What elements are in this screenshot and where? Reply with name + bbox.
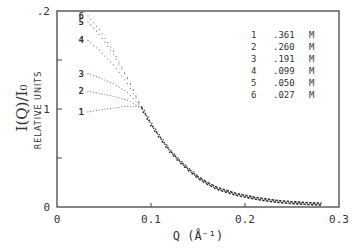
data-point: [87, 21, 88, 22]
data-point: [308, 204, 310, 206]
data-point: [143, 110, 145, 112]
data-point: [99, 29, 100, 30]
data-point: [223, 189, 225, 191]
data-point: [110, 50, 111, 51]
x-axis-label: Q (Å⁻¹): [173, 228, 224, 243]
data-point: [157, 133, 159, 135]
legend: 1.361M2.260M3.191M4.099M5.050M6.027M: [251, 30, 315, 100]
data-point: [113, 96, 114, 97]
data-point: [192, 171, 194, 173]
data-point: [142, 108, 144, 110]
data-point: [113, 64, 114, 65]
data-point: [285, 202, 287, 204]
data-point: [87, 73, 88, 74]
data-point: [113, 107, 114, 108]
data-point: [104, 55, 105, 56]
series-6: [87, 15, 142, 108]
data-point: [172, 153, 174, 155]
data-point: [113, 51, 114, 52]
data-point: [242, 194, 244, 196]
data-point: [90, 19, 91, 20]
data-point: [87, 91, 88, 92]
data-point: [121, 88, 122, 89]
data-point: [116, 56, 117, 57]
data-point: [118, 61, 119, 62]
legend-unit: M: [309, 66, 315, 76]
data-point: [110, 95, 111, 96]
data-point: [208, 183, 210, 185]
data-point: [161, 141, 163, 143]
data-point: [127, 83, 128, 84]
data-point: [265, 198, 267, 200]
data-point: [102, 78, 103, 79]
legend-unit: M: [309, 90, 315, 100]
data-point: [107, 58, 108, 59]
data-point: [175, 155, 177, 157]
data-point: [145, 115, 147, 117]
data-point: [90, 42, 91, 43]
data-point: [316, 204, 318, 206]
data-point: [133, 106, 134, 107]
legend-unit: M: [309, 42, 315, 52]
data-point: [210, 185, 212, 187]
data-point: [118, 107, 119, 108]
data-point: [297, 203, 299, 205]
data-point: [225, 191, 227, 193]
data-point: [121, 75, 122, 76]
data-point: [127, 77, 128, 78]
y-axis-sublabel: RELATIVE UNITS: [34, 71, 43, 150]
data-point: [124, 90, 125, 91]
data-point: [150, 125, 152, 127]
legend-concentration: .027: [273, 90, 295, 100]
data-point: [96, 47, 97, 48]
data-point: [93, 110, 94, 111]
data-point: [87, 111, 88, 112]
data-point: [113, 54, 114, 55]
y-axis-label: I(Q)/I₀: [13, 85, 31, 132]
data-point: [121, 98, 122, 99]
data-point: [182, 163, 184, 165]
data-point: [121, 68, 122, 69]
data-point: [90, 91, 91, 92]
data-point: [93, 22, 94, 23]
data-point: [183, 165, 185, 167]
data-point: [214, 187, 216, 189]
data-point: [171, 151, 173, 153]
data-point: [240, 195, 242, 197]
data-point: [121, 66, 122, 67]
data-point: [104, 38, 105, 39]
data-point: [99, 77, 100, 78]
data-point: [254, 196, 256, 198]
series-1: [87, 105, 142, 112]
data-point: [319, 204, 321, 206]
curve-labels: 123456: [79, 11, 85, 117]
data-point: [110, 46, 111, 47]
data-point: [320, 202, 322, 204]
legend-concentration: .191: [273, 54, 295, 64]
data-point: [93, 28, 94, 29]
data-point: [218, 189, 220, 191]
data-point: [138, 104, 139, 105]
data-point: [160, 139, 162, 141]
data-point: [133, 98, 134, 99]
data-point: [185, 165, 187, 167]
legend-id: 6: [251, 90, 256, 100]
data-point: [156, 131, 158, 133]
data-point: [237, 195, 239, 197]
data-point: [274, 201, 276, 203]
data-point: [270, 201, 272, 203]
data-point: [180, 163, 182, 165]
data-point: [229, 192, 231, 194]
data-point: [195, 176, 197, 178]
data-point: [194, 175, 196, 177]
legend-id: 1: [251, 30, 256, 40]
data-point: [104, 42, 105, 43]
legend-id: 5: [251, 78, 256, 88]
series-2: [87, 91, 142, 109]
data-point: [133, 93, 134, 94]
data-point: [186, 166, 188, 168]
data-point: [130, 88, 131, 89]
data-point: [289, 203, 291, 205]
data-point: [302, 202, 304, 204]
data-point: [107, 42, 108, 43]
